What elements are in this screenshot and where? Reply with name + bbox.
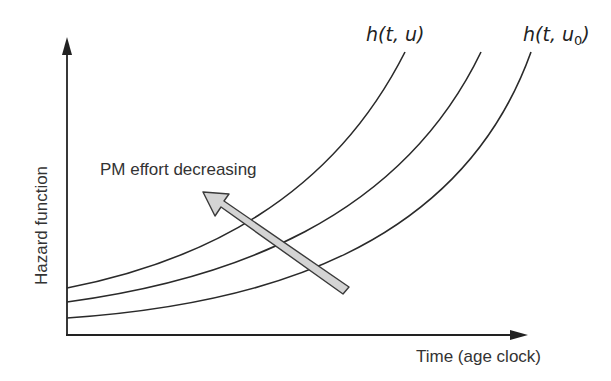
hazard-curves (67, 52, 531, 318)
y-axis-label: Hazard function (32, 166, 51, 285)
curve-label-h-t-u0-main: h(t, u (523, 23, 574, 45)
pm-effort-arrow (203, 192, 349, 294)
curve-label-h-t-u: h(t, u) (366, 23, 424, 45)
arrow-up-left-icon (203, 192, 349, 294)
x-axis-arrowhead-icon (510, 330, 528, 340)
x-axis-label: Time (age clock) (416, 347, 541, 366)
curve-label-h-t-u0: h(t, u0) (523, 23, 590, 48)
curve-label-subscript: 0 (574, 33, 582, 48)
y-axis-arrowhead-icon (62, 37, 72, 55)
annotation-pm-effort: PM effort decreasing (100, 160, 257, 179)
curve-label-close-paren: ) (580, 23, 589, 45)
hazard-function-diagram: PM effort decreasing Time (age clock) Ha… (0, 0, 611, 381)
